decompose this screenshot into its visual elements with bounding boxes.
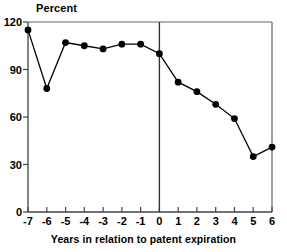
y-tick-label-60: 60 — [0, 112, 22, 123]
data-point — [100, 46, 107, 53]
data-point — [118, 41, 125, 48]
y-tick-label-120: 120 — [0, 17, 22, 28]
data-point — [194, 88, 201, 95]
data-point — [43, 85, 50, 92]
y-tick-label-30: 30 — [0, 160, 22, 171]
chart-container: Percent — [0, 0, 287, 252]
data-point — [250, 153, 257, 160]
data-point — [269, 144, 276, 151]
data-point — [156, 50, 163, 57]
data-point — [25, 27, 32, 34]
y-tick-label-90: 90 — [0, 65, 22, 76]
data-point — [137, 41, 144, 48]
data-point-markers — [25, 27, 276, 160]
x-tick-label-6: 6 — [261, 216, 283, 227]
x-axis-title: Years in relation to patent expiration — [0, 233, 287, 245]
data-point — [81, 42, 88, 49]
x-tick-marks — [28, 207, 272, 212]
data-series-line — [28, 30, 272, 157]
data-point — [62, 39, 69, 46]
data-point — [231, 115, 238, 122]
data-point — [175, 79, 182, 86]
y-tick-marks — [23, 22, 28, 212]
data-point — [212, 101, 219, 108]
